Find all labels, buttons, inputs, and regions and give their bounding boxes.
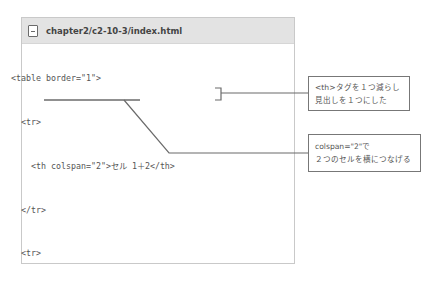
callout-text: 見出しを１つにした [315, 95, 403, 108]
callout-text: colspan="2"で [315, 141, 414, 154]
callout-text: ２つのセルを横につなげる [315, 154, 414, 167]
callout-colspan: colspan="2"で ２つのセルを横につなげる [308, 134, 421, 172]
bracket-marker [215, 88, 221, 100]
callout-th-reduced: <th>タグを１つ減らし 見出しを１つにした [308, 76, 410, 111]
leader-line-colspan [124, 100, 308, 153]
callout-text: <th>タグを１つ減らし [315, 82, 403, 95]
